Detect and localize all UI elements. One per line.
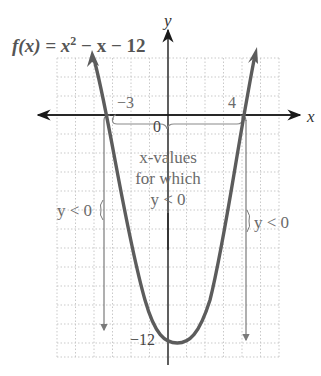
x-axis-label: x xyxy=(307,108,315,125)
annotation-line-3: y < 0 xyxy=(120,189,216,210)
graph-figure: f(x) = x2 − x − 12 y x −3 4 0 −12 x-valu… xyxy=(0,0,321,376)
annotation-line-2: for which xyxy=(120,168,216,189)
y-axis-label: y xyxy=(164,12,172,29)
annotation-line-1: x-values xyxy=(120,147,216,168)
origin-label: 0 xyxy=(153,119,161,135)
x-interval-bracket xyxy=(113,115,243,129)
function-title: f(x) = x2 − x − 12 xyxy=(12,34,145,57)
left-brace-label: y < 0 xyxy=(57,202,92,219)
title-base: f(x) = x xyxy=(12,35,70,56)
tick-label-4: 4 xyxy=(228,95,236,111)
right-brace-label: y < 0 xyxy=(254,214,289,231)
tick-label-neg3: −3 xyxy=(117,95,134,111)
title-suffix: − x − 12 xyxy=(76,35,145,56)
y-intercept-label: −12 xyxy=(130,332,155,348)
interval-annotation: x-values for which y < 0 xyxy=(120,147,216,210)
